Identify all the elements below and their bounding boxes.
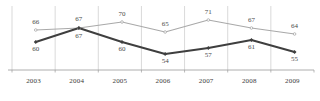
x-axis-tick-label: 2004 bbox=[69, 77, 84, 85]
data-point-value-label: 67 bbox=[75, 32, 82, 40]
data-point-value-label: 60 bbox=[119, 45, 126, 53]
data-point-value-label: 61 bbox=[248, 43, 255, 51]
data-point-value-label: 66 bbox=[32, 18, 39, 26]
x-axis-tick-label: 2006 bbox=[156, 77, 171, 85]
data-point-value-label: 71 bbox=[205, 8, 212, 16]
x-axis-tick-label: 2007 bbox=[199, 77, 214, 85]
x-axis-tick-label: 2009 bbox=[285, 77, 300, 85]
data-point-marker bbox=[164, 31, 167, 34]
data-point-value-label: 65 bbox=[162, 20, 169, 28]
data-point-marker bbox=[121, 21, 124, 24]
axis-line-group bbox=[8, 70, 314, 73]
data-point-marker bbox=[206, 46, 210, 50]
x-axis-tick-label: 2008 bbox=[242, 77, 257, 85]
data-point-value-label: 67 bbox=[248, 16, 255, 24]
data-point-marker bbox=[250, 27, 253, 30]
data-point-value-label: 67 bbox=[75, 15, 82, 23]
data-point-value-label: 54 bbox=[162, 57, 169, 65]
data-point-value-label: 64 bbox=[291, 22, 298, 30]
data-point-value-label: 60 bbox=[32, 45, 39, 53]
data-point-marker bbox=[207, 19, 210, 22]
line-chart: 2003200420052006200720082009 66677065716… bbox=[0, 0, 320, 101]
data-point-marker bbox=[34, 29, 37, 32]
chart-plot-area bbox=[0, 0, 320, 101]
data-point-value-label: 55 bbox=[291, 55, 298, 63]
x-axis-tick-label: 2005 bbox=[112, 77, 127, 85]
x-axis-tick-label: 2003 bbox=[26, 77, 41, 85]
data-point-value-label: 57 bbox=[205, 51, 212, 59]
data-point-value-label: 70 bbox=[119, 10, 126, 18]
data-point-marker bbox=[293, 33, 296, 36]
